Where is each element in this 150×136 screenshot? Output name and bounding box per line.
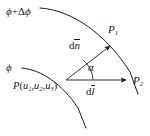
angle-alpha-label: α — [88, 62, 94, 73]
gradient-geometry-figure: ϕ+Δϕ ϕ P(u1,u2,u3) P1 P2 dn dl α — [0, 0, 150, 136]
point-p-u3: u3 — [45, 80, 54, 91]
vector-dn-label: dn — [69, 40, 80, 51]
point-p-paren-close: ) — [54, 80, 58, 91]
vector-dl-l: l — [92, 86, 95, 97]
point-p2-subscript: 2 — [140, 80, 143, 87]
point-p-u2: u2 — [34, 80, 43, 91]
point-p-label: P(u1,u2,u3) — [13, 81, 57, 92]
vector-dl-label: dl — [86, 86, 95, 97]
figure-canvas — [0, 0, 150, 136]
inner-equipotential-arc — [22, 68, 86, 128]
outer-surface-phi2-symbol: ϕ — [25, 5, 31, 17]
outer-surface-label: ϕ+Δϕ — [6, 6, 31, 17]
outer-surface-delta-symbol: Δ — [18, 5, 25, 17]
point-p1-label: P1 — [108, 24, 118, 35]
point-p2-label: P2 — [133, 75, 143, 86]
inner-surface-label: ϕ — [6, 62, 12, 73]
vector-dn-n: n — [75, 40, 81, 51]
point-p2-name: P — [133, 74, 140, 86]
point-p1-name: P — [108, 23, 115, 35]
point-p1-subscript: 1 — [115, 29, 118, 36]
